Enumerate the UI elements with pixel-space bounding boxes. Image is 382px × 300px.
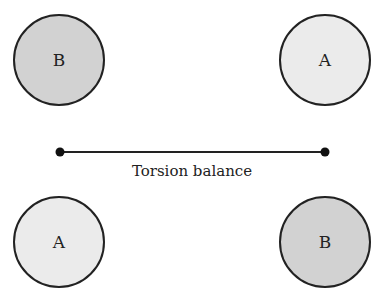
mass-label-bottom-right: B	[319, 232, 332, 252]
mass-label-top-left: B	[53, 50, 66, 70]
mass-label-bottom-left: A	[52, 232, 66, 252]
torsion-balance-diagram: B A Torsion balance A B	[0, 0, 382, 300]
mass-top-right: A	[280, 15, 370, 105]
mass-top-left: B	[14, 15, 104, 105]
mass-label-top-right: A	[318, 50, 332, 70]
balance-end-dot-right	[321, 148, 330, 157]
mass-bottom-left: A	[14, 197, 104, 287]
torsion-balance: Torsion balance	[56, 148, 330, 181]
mass-bottom-right: B	[280, 197, 370, 287]
balance-end-dot-left	[56, 148, 65, 157]
balance-label: Torsion balance	[132, 162, 252, 180]
